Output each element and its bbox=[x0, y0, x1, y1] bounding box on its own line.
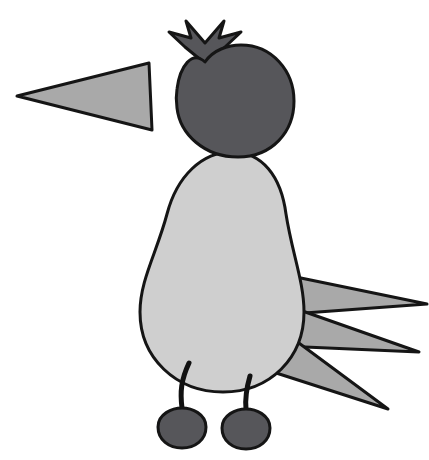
bird-illustration bbox=[0, 0, 429, 460]
bird-foot-left bbox=[158, 408, 206, 448]
illustration-canvas: Cartoon bird facing left with crest, lon… bbox=[0, 0, 429, 460]
bird-head bbox=[176, 45, 294, 157]
bird-foot-right bbox=[222, 409, 270, 449]
